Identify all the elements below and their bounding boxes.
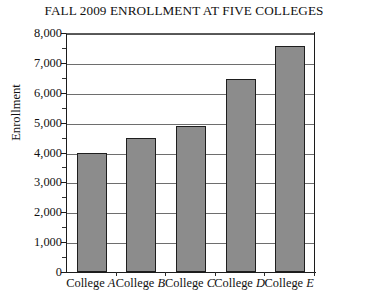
- y-tick-label-2000: 2,000: [2, 206, 62, 218]
- bar-c: [176, 126, 206, 272]
- y-tick-label-8000: 8,000: [2, 27, 62, 39]
- bar-a: [77, 153, 107, 273]
- bar-chart-figure: FALL 2009 ENROLLMENT AT FIVE COLLEGES En…: [0, 0, 368, 300]
- y-tick-label-3000: 3,000: [2, 176, 62, 188]
- x-label-letter: E: [306, 276, 314, 290]
- x-tick-label-e: College E: [249, 276, 329, 291]
- right-axis-line: [314, 32, 315, 273]
- gridline-8000: [67, 34, 314, 35]
- bar-e: [275, 46, 305, 272]
- y-tick-label-1000: 1,000: [2, 236, 62, 248]
- y-tick-label-5000: 5,000: [2, 116, 62, 128]
- y-tick-label-4000: 4,000: [2, 146, 62, 158]
- x-axis-line: [66, 272, 316, 273]
- bar-d: [226, 79, 256, 272]
- chart-title: FALL 2009 ENROLLMENT AT FIVE COLLEGES: [0, 3, 368, 19]
- bar-b: [126, 138, 156, 272]
- y-tick-label-7000: 7,000: [2, 57, 62, 69]
- x-label-prefix: College: [265, 276, 307, 290]
- y-tick-label-6000: 6,000: [2, 87, 62, 99]
- plot-area: [66, 33, 314, 272]
